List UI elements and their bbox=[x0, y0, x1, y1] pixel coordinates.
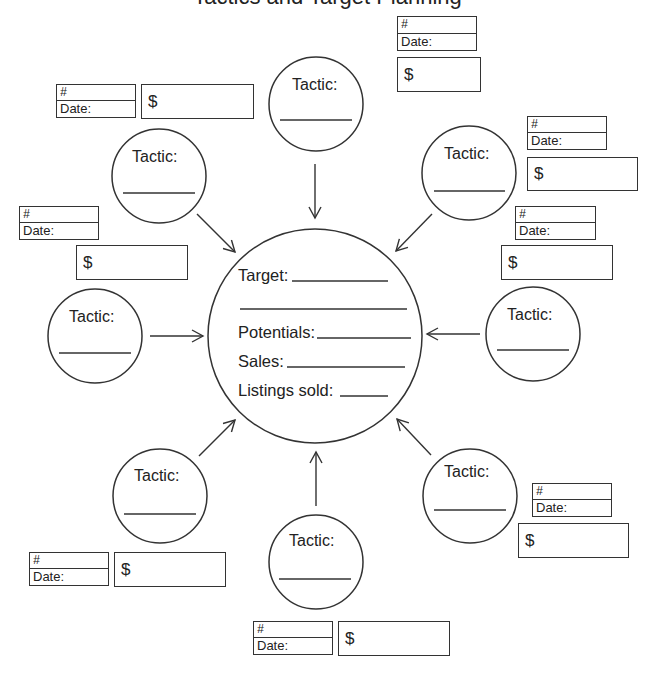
date-field[interactable]: Date: bbox=[30, 569, 108, 585]
tactic-top-left: Tactic: bbox=[112, 129, 206, 223]
tactic-circle bbox=[422, 126, 516, 220]
number-field[interactable]: # bbox=[533, 484, 611, 500]
number-date-box-top[interactable]: # Date: bbox=[397, 16, 477, 51]
dollar-box-top-left[interactable]: $ bbox=[141, 84, 254, 119]
date-field[interactable]: Date: bbox=[398, 34, 476, 51]
tactic-wheel-diagram: Tactics and Target Planning Target: Pote… bbox=[0, 0, 655, 678]
date-field[interactable]: Date: bbox=[254, 638, 332, 654]
tactic-bottom-left: Tactic: bbox=[113, 449, 207, 543]
dollar-box-bottom-left[interactable]: $ bbox=[114, 552, 226, 587]
tactic-label: Tactic: bbox=[292, 76, 337, 93]
date-field[interactable]: Date: bbox=[533, 500, 611, 516]
tactic-label: Tactic: bbox=[444, 145, 489, 162]
date-field[interactable]: Date: bbox=[20, 223, 98, 239]
tactic-circle bbox=[112, 129, 206, 223]
tactic-circle bbox=[113, 449, 207, 543]
dollar-label: $ bbox=[148, 92, 157, 112]
tactic-circle bbox=[269, 57, 363, 151]
tactic-label: Tactic: bbox=[132, 148, 177, 165]
number-field[interactable]: # bbox=[254, 622, 332, 638]
number-date-box-bottom-right[interactable]: # Date: bbox=[532, 483, 612, 517]
target-label: Target: bbox=[238, 266, 288, 284]
arrow-top-left-icon bbox=[197, 214, 235, 252]
tactic-left: Tactic: bbox=[48, 289, 142, 383]
dollar-box-bottom-right[interactable]: $ bbox=[518, 523, 629, 558]
dollar-box-bottom[interactable]: $ bbox=[338, 621, 450, 656]
tactic-circle bbox=[48, 289, 142, 383]
number-date-box-bottom-left[interactable]: # Date: bbox=[29, 552, 109, 586]
tactic-label: Tactic: bbox=[444, 463, 489, 480]
listings-sold-label: Listings sold: bbox=[238, 381, 333, 399]
dollar-label: $ bbox=[404, 65, 413, 85]
number-field[interactable]: # bbox=[398, 17, 476, 34]
dollar-box-left[interactable]: $ bbox=[76, 245, 188, 280]
dollar-box-top[interactable]: $ bbox=[397, 57, 481, 92]
date-field[interactable]: Date: bbox=[57, 101, 135, 117]
tactic-bottom: Tactic: bbox=[269, 515, 363, 609]
dollar-label: $ bbox=[345, 629, 354, 649]
tactic-label: Tactic: bbox=[69, 308, 114, 325]
number-date-box-top-right[interactable]: # Date: bbox=[527, 116, 607, 150]
center-hub: Target: Potentials: Sales: Listings sold… bbox=[208, 229, 422, 443]
dollar-box-right[interactable]: $ bbox=[501, 245, 613, 280]
dollar-label: $ bbox=[508, 253, 517, 273]
tactic-top-right: Tactic: bbox=[422, 126, 516, 220]
number-field[interactable]: # bbox=[528, 117, 606, 133]
date-field[interactable]: Date: bbox=[516, 223, 595, 239]
date-field[interactable]: Date: bbox=[528, 133, 606, 149]
tactic-label: Tactic: bbox=[134, 467, 179, 484]
tactic-label: Tactic: bbox=[507, 306, 552, 323]
number-date-box-left[interactable]: # Date: bbox=[19, 206, 99, 240]
number-field[interactable]: # bbox=[516, 207, 595, 223]
arrow-bottom-right-icon bbox=[397, 419, 431, 455]
number-field[interactable]: # bbox=[57, 85, 135, 101]
tactic-bottom-right: Tactic: bbox=[423, 449, 517, 543]
dollar-box-top-right[interactable]: $ bbox=[527, 157, 638, 191]
number-date-box-bottom[interactable]: # Date: bbox=[253, 621, 333, 655]
arrow-top-right-icon bbox=[396, 214, 432, 251]
number-field[interactable]: # bbox=[30, 553, 108, 569]
potentials-label: Potentials: bbox=[238, 323, 315, 341]
dollar-label: $ bbox=[121, 560, 130, 580]
dollar-label: $ bbox=[525, 531, 534, 551]
number-date-box-right[interactable]: # Date: bbox=[515, 206, 596, 240]
dollar-label: $ bbox=[534, 164, 543, 184]
tactic-circle bbox=[486, 287, 580, 381]
tactic-right: Tactic: bbox=[486, 287, 580, 381]
number-date-box-top-left[interactable]: # Date: bbox=[56, 84, 136, 118]
tactic-label: Tactic: bbox=[289, 532, 334, 549]
tactic-circle bbox=[269, 515, 363, 609]
tactic-top: Tactic: bbox=[269, 57, 363, 151]
dollar-label: $ bbox=[83, 253, 92, 273]
arrow-bottom-left-icon bbox=[199, 420, 235, 456]
number-field[interactable]: # bbox=[20, 207, 98, 223]
sales-label: Sales: bbox=[238, 352, 284, 370]
